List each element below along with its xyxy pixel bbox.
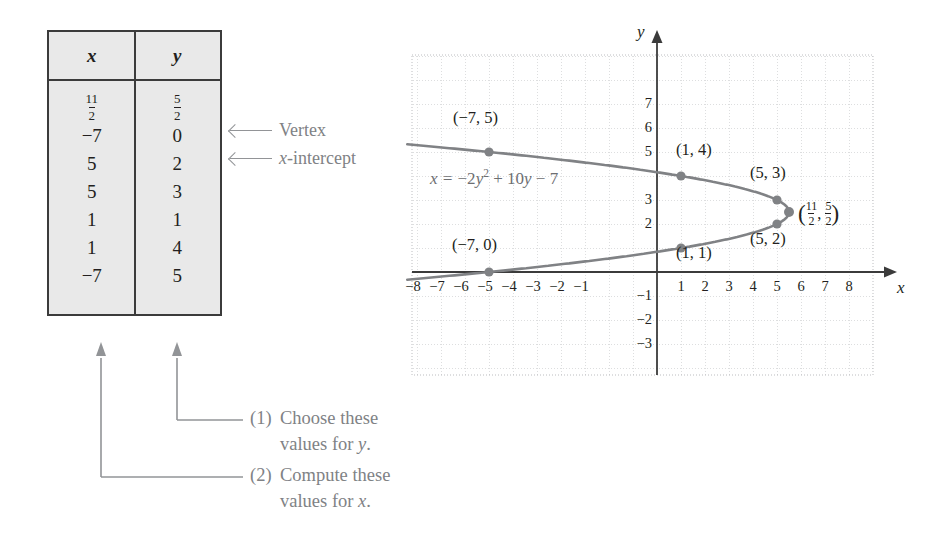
x-tick--6: −6 <box>449 278 473 295</box>
data-point <box>676 171 685 180</box>
comma: , <box>817 204 825 224</box>
y-tick-7: 7 <box>630 95 652 112</box>
y-tick--3: −3 <box>624 335 652 352</box>
y-tick-5: 5 <box>630 143 652 160</box>
point-label-neg7-0: (−7, 0) <box>452 235 497 255</box>
data-point <box>772 219 781 228</box>
x-axis-arrow <box>884 267 897 278</box>
x-tick-1: 1 <box>669 278 693 295</box>
x-tick-4: 4 <box>741 278 765 295</box>
point-label-1-4: (1, 4) <box>676 140 712 160</box>
y-tick-6: 6 <box>630 119 652 136</box>
fraction-eleven-halves: 11 2 <box>806 200 818 227</box>
y-tick--2: −2 <box>624 311 652 328</box>
data-point <box>772 195 781 204</box>
x-tick-3: 3 <box>717 278 741 295</box>
equation-label: x = −2y2 + 10y − 7 <box>430 167 558 189</box>
y-tick-2: 2 <box>630 215 652 232</box>
coordinate-graph <box>0 0 936 545</box>
point-label-vertex: ( 11 2 , 5 2 ) <box>798 200 839 227</box>
data-point <box>484 267 493 276</box>
data-point <box>484 147 493 156</box>
x-tick--7: −7 <box>425 278 449 295</box>
point-label-neg7-5: (−7, 5) <box>453 108 498 128</box>
x-tick-6: 6 <box>789 278 813 295</box>
x-tick--5: −5 <box>473 278 497 295</box>
x-tick--2: −2 <box>545 278 569 295</box>
y-tick--1: −1 <box>624 287 652 304</box>
point-label-5-3: (5, 3) <box>750 163 786 183</box>
y-axis-label: y <box>637 22 645 42</box>
x-tick--8: −8 <box>401 278 425 295</box>
x-tick--4: −4 <box>497 278 521 295</box>
point-label-5-2: (5, 2) <box>750 229 786 249</box>
y-axis-arrow <box>652 30 663 43</box>
x-tick--1: −1 <box>569 278 593 295</box>
paren-close: ) <box>831 201 839 227</box>
x-tick-5: 5 <box>765 278 789 295</box>
x-tick-2: 2 <box>693 278 717 295</box>
point-label-1-1: (1, 1) <box>676 243 712 263</box>
data-point-vertex <box>784 207 794 217</box>
x-tick-7: 7 <box>813 278 837 295</box>
x-tick-8: 8 <box>837 278 861 295</box>
y-tick-3: 3 <box>630 191 652 208</box>
x-tick--3: −3 <box>521 278 545 295</box>
paren-open: ( <box>798 201 806 227</box>
x-axis-label: x <box>897 278 905 298</box>
